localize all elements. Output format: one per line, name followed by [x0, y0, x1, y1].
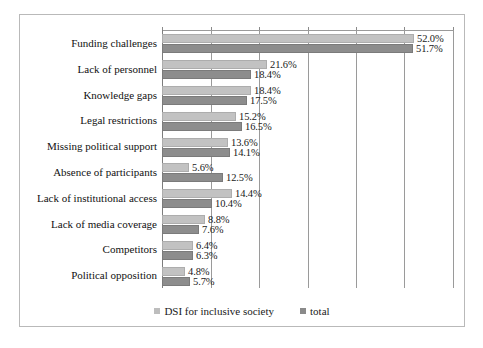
- legend-item-1[interactable]: total: [300, 305, 330, 317]
- bar-value-label: 10.4%: [215, 198, 242, 209]
- bar-1[interactable]: [162, 199, 212, 208]
- category-label: Absence of participants: [53, 166, 157, 178]
- bar-value-label: 5.7%: [193, 276, 214, 287]
- bar-0[interactable]: [162, 138, 228, 147]
- bar-1[interactable]: [162, 44, 413, 53]
- bar-1[interactable]: [162, 148, 230, 157]
- bar-0[interactable]: [162, 189, 232, 198]
- x-tick-10: [211, 27, 212, 30]
- bar-value-label: 12.5%: [226, 172, 253, 183]
- gridline-60: [453, 30, 454, 288]
- bar-0[interactable]: [162, 86, 251, 95]
- bar-value-label: 18.4%: [254, 69, 281, 80]
- category-label: Missing political support: [47, 140, 157, 152]
- bar-value-label: 17.5%: [250, 95, 277, 106]
- bar-1[interactable]: [162, 122, 242, 131]
- bar-0[interactable]: [162, 60, 267, 69]
- category-label: Legal restrictions: [80, 114, 157, 126]
- x-tick-0: [162, 27, 163, 30]
- bar-value-label: 6.3%: [196, 250, 217, 261]
- category-axis-labels: Funding challengesLack of personnelKnowl…: [20, 30, 157, 288]
- legend-label: total: [310, 305, 330, 317]
- bar-1[interactable]: [162, 173, 223, 182]
- bar-1[interactable]: [162, 70, 251, 79]
- gridline-50: [404, 30, 405, 288]
- bar-value-label: 14.1%: [233, 147, 260, 158]
- category-label: Lack of institutional access: [37, 192, 157, 204]
- bar-1[interactable]: [162, 225, 199, 234]
- legend-swatch-icon: [300, 308, 306, 314]
- category-label: Funding challenges: [71, 37, 157, 49]
- bar-value-label: 51.7%: [416, 43, 443, 54]
- chart-legend: DSI for inclusive societytotal: [20, 305, 464, 317]
- x-tick-60: [453, 27, 454, 30]
- legend-item-0[interactable]: DSI for inclusive society: [154, 305, 274, 317]
- gridline-30: [308, 30, 309, 288]
- category-label: Political opposition: [71, 269, 157, 281]
- bar-1[interactable]: [162, 96, 247, 105]
- legend-swatch-icon: [154, 308, 160, 314]
- bar-value-label: 16.5%: [245, 121, 272, 132]
- bar-value-label: 7.6%: [202, 224, 223, 235]
- bar-0[interactable]: [162, 215, 205, 224]
- bar-value-label: 5.6%: [192, 162, 213, 173]
- plot-area: 52.0%51.7%21.6%18.4%18.4%17.5%15.2%16.5%…: [162, 30, 453, 288]
- category-label: Competitors: [103, 243, 157, 255]
- bar-0[interactable]: [162, 267, 185, 276]
- bar-1[interactable]: [162, 251, 193, 260]
- category-label: Lack of personnel: [78, 63, 157, 75]
- x-tick-50: [404, 27, 405, 30]
- bar-1[interactable]: [162, 277, 190, 286]
- chart-frame: Funding challengesLack of personnelKnowl…: [19, 14, 465, 327]
- gridline-40: [356, 30, 357, 288]
- category-label: Knowledge gaps: [83, 89, 157, 101]
- bar-0[interactable]: [162, 34, 414, 43]
- category-label: Lack of media coverage: [51, 218, 157, 230]
- legend-label: DSI for inclusive society: [164, 305, 274, 317]
- bar-0[interactable]: [162, 241, 193, 250]
- bar-0[interactable]: [162, 112, 236, 121]
- x-tick-30: [308, 27, 309, 30]
- x-tick-20: [259, 27, 260, 30]
- bar-0[interactable]: [162, 163, 189, 172]
- x-tick-40: [356, 27, 357, 30]
